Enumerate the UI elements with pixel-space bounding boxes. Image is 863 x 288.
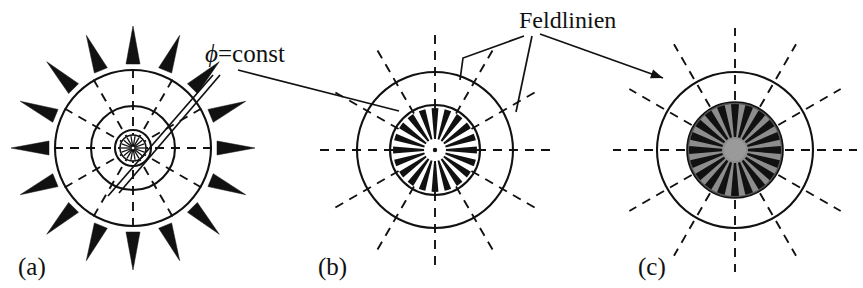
- phi-const-label: ϕ=const: [205, 40, 285, 67]
- field-line-diagram-svg: ϕ=const Feldlinien (a) (b) (c): [0, 0, 863, 288]
- panel-a-label: (a): [18, 253, 46, 281]
- panel-c-label: (c): [638, 253, 666, 281]
- phi-symbol: ϕ: [205, 40, 218, 67]
- feldlinien-label: Feldlinien: [519, 7, 616, 33]
- phi-const-rest: =const: [218, 40, 285, 67]
- figure-container: ϕ=const Feldlinien (a) (b) (c): [0, 0, 863, 288]
- center-hub: [724, 139, 746, 161]
- panel-b-label: (b): [318, 253, 347, 281]
- hub-dot: [433, 148, 437, 152]
